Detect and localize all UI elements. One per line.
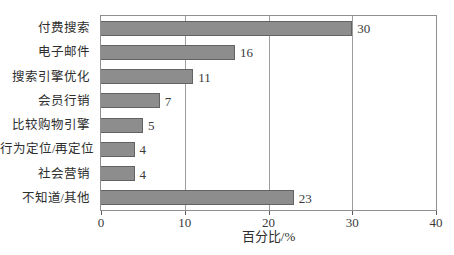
bar-value-label: 5 [148,119,155,132]
bar-row: 30 [101,21,436,36]
bar-row: 5 [101,118,436,133]
bar-row: 7 [101,93,436,108]
category-label: 会员行销 [0,89,94,113]
bar-value-label: 4 [140,167,147,180]
bar [101,142,135,157]
bar-value-label: 7 [165,94,172,107]
category-label: 社会营销 [0,162,94,186]
bar-row: 11 [101,69,436,84]
bar [101,190,294,205]
category-label: 电子邮件 [0,40,94,64]
bar-value-label: 4 [140,143,147,156]
bar [101,93,160,108]
bar [101,69,193,84]
plot-area: 301611754423 [100,15,437,211]
bar-value-label: 23 [299,191,312,204]
bar-row: 16 [101,45,436,60]
bar [101,45,235,60]
category-label: 不知道/其他 [0,186,94,210]
bar-row: 4 [101,166,436,181]
x-axis-title: 百分比/% [100,226,437,245]
bar-row: 23 [101,190,436,205]
bar-chart-figure: 301611754423 付费搜索电子邮件搜索引擎优化会员行销比较购物引擎行为定… [0,0,454,255]
bar-value-label: 16 [240,46,253,59]
category-label: 搜索引擎优化 [0,65,94,89]
bar [101,21,352,36]
bar [101,166,135,181]
category-axis-labels: 付费搜索电子邮件搜索引擎优化会员行销比较购物引擎行为定位/再定位社会营销不知道/… [0,15,94,211]
bar-value-label: 30 [357,22,370,35]
category-label: 比较购物引擎 [0,113,94,137]
category-label: 付费搜索 [0,16,94,40]
bar-value-label: 11 [198,70,211,83]
category-label: 行为定位/再定位 [0,137,94,161]
bar [101,118,143,133]
bar-row: 4 [101,142,436,157]
